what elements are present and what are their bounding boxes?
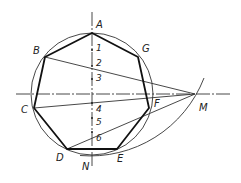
label-D: D [56,152,64,163]
ray-C-M [34,94,195,108]
division-2: 2 [96,58,102,68]
division-4: 4 [96,104,102,114]
label-M: M [199,102,208,113]
label-B: B [33,45,40,56]
label-F: F [154,98,160,109]
ray-B-M [45,57,195,94]
label-C: C [21,104,28,115]
label-A: A [95,19,103,30]
division-5: 5 [96,117,102,127]
division-6: 6 [96,133,102,143]
label-N: N [82,161,90,172]
division-1: 1 [96,43,102,53]
label-G: G [142,43,150,54]
heptagon-construction-diagram: A B C D E F G M N 1 2 3 4 5 6 [0,0,241,183]
division-3: 3 [96,73,102,83]
label-E: E [117,153,124,164]
